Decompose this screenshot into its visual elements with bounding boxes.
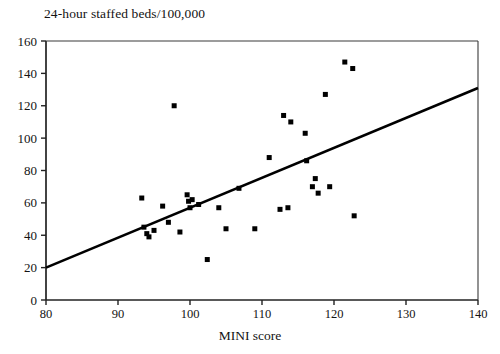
data-point — [310, 184, 315, 189]
svg-text:160: 160 — [18, 34, 38, 49]
data-point — [327, 184, 332, 189]
svg-text:0: 0 — [31, 293, 38, 308]
data-point — [196, 202, 201, 207]
data-point — [236, 186, 241, 191]
data-point — [288, 119, 293, 124]
data-point — [342, 60, 347, 65]
data-point — [160, 204, 165, 209]
data-points — [139, 60, 356, 262]
svg-text:80: 80 — [24, 163, 37, 178]
data-point — [146, 234, 151, 239]
data-point — [313, 176, 318, 181]
svg-text:120: 120 — [325, 307, 344, 321]
data-point — [267, 155, 272, 160]
svg-text:110: 110 — [253, 307, 271, 321]
data-point — [166, 220, 171, 225]
data-point — [278, 207, 283, 212]
data-point — [303, 131, 308, 136]
data-point — [216, 205, 221, 210]
data-point — [141, 225, 146, 230]
svg-text:140: 140 — [469, 307, 488, 321]
svg-text:140: 140 — [18, 66, 38, 81]
svg-text:100: 100 — [181, 307, 200, 321]
data-point — [205, 257, 210, 262]
data-point — [152, 228, 157, 233]
data-point — [316, 191, 321, 196]
svg-text:80: 80 — [40, 307, 53, 321]
x-axis-label: MINI score — [0, 328, 500, 344]
data-point — [352, 213, 357, 218]
data-point — [281, 113, 286, 118]
trend-line — [46, 88, 478, 268]
data-point — [285, 205, 290, 210]
svg-text:120: 120 — [18, 98, 38, 113]
svg-text:40: 40 — [24, 228, 37, 243]
data-point — [139, 196, 144, 201]
data-point — [188, 205, 193, 210]
svg-text:130: 130 — [397, 307, 416, 321]
x-axis-ticks: 8090100110120130140 — [40, 300, 488, 321]
plot-canvas: 020406080100120140160 809010011012013014… — [0, 0, 500, 354]
data-point — [350, 66, 355, 71]
scatter-chart: 24-hour staffed beds/100,000 02040608010… — [0, 0, 500, 354]
data-point — [177, 230, 182, 235]
data-point — [323, 92, 328, 97]
svg-text:60: 60 — [24, 195, 37, 210]
data-point — [304, 158, 309, 163]
svg-text:20: 20 — [24, 260, 37, 275]
plot-frame — [46, 41, 478, 300]
data-point — [172, 103, 177, 108]
data-point — [252, 226, 257, 231]
svg-text:100: 100 — [18, 131, 38, 146]
y-axis-ticks: 020406080100120140160 — [18, 34, 47, 308]
data-point — [185, 192, 190, 197]
data-point — [190, 197, 195, 202]
svg-text:90: 90 — [112, 307, 125, 321]
data-point — [224, 226, 229, 231]
